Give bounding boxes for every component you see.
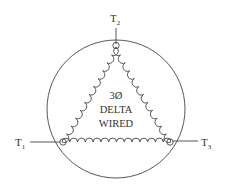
delta-label: DELTA bbox=[100, 104, 133, 115]
wired-label: WIRED bbox=[99, 118, 134, 129]
delta-wiring-diagram: T2 T1 T3 3Ø DELTA WIRED bbox=[0, 0, 225, 192]
phase-label: 3Ø bbox=[110, 90, 123, 101]
terminal-label-t3: T3 bbox=[201, 136, 212, 151]
terminal-label-t2: T2 bbox=[110, 12, 121, 27]
terminal-label-t1: T1 bbox=[15, 136, 26, 151]
